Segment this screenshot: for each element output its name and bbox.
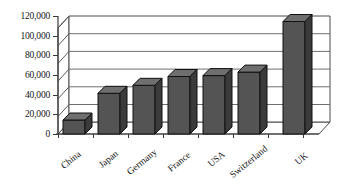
x-axis-label-france: France xyxy=(166,150,192,174)
x-axis-tick-mark xyxy=(128,134,129,138)
x-axis-tick-mark xyxy=(233,134,234,138)
x-axis-tick-mark xyxy=(303,134,304,138)
x-axis-label-china: China xyxy=(59,149,83,171)
x-axis-tick-mark xyxy=(163,134,164,138)
x-axis-tick-mark xyxy=(58,134,59,138)
x-axis-tick-mark xyxy=(198,134,199,138)
x-axis-label-switzerland: Switzerland xyxy=(228,144,270,180)
x-axis-tick-mark xyxy=(93,134,94,138)
x-axis: China Japan Germany France USA Switzerla… xyxy=(0,0,348,195)
x-axis-tick-mark xyxy=(268,134,269,138)
x-axis-label-usa: USA xyxy=(206,149,227,169)
bar-chart: 120,000 100,000 80,000 60,000 40,000 20,… xyxy=(0,0,348,195)
x-axis-label-uk: UK xyxy=(293,150,310,166)
x-axis-label-japan: Japan xyxy=(97,148,120,169)
x-axis-label-germany: Germany xyxy=(125,147,159,177)
